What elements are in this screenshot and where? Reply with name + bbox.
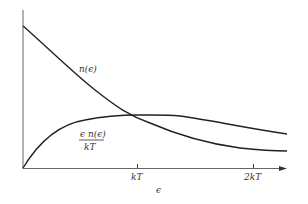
en-curve bbox=[23, 115, 287, 168]
n-curve bbox=[23, 26, 287, 151]
en-curve-label-denominator: kT bbox=[84, 142, 96, 152]
tick-label-2kt: 2kT bbox=[243, 172, 262, 182]
en-curve-label-numerator: ϵ n(ϵ) bbox=[80, 129, 106, 139]
x-axis-label: ϵ bbox=[156, 185, 161, 195]
n-curve-label: n(ϵ) bbox=[79, 64, 97, 74]
tick-label-kt: kT bbox=[131, 172, 143, 182]
chart-canvas: n(ϵ) ϵ n(ϵ) kT kT 2kT ϵ bbox=[0, 0, 308, 204]
x-axis-arrow-icon bbox=[279, 166, 287, 171]
